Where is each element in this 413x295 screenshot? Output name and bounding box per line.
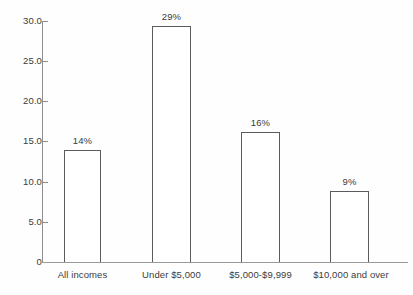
y-tick-mark bbox=[42, 101, 48, 102]
plot-area: 30.0 25.0 20.0 15.0 10.0 5.0 0 bbox=[0, 0, 413, 295]
y-tick-label: 5.0 bbox=[9, 217, 42, 227]
y-tick-label: 0 bbox=[9, 257, 42, 267]
y-tick-mark bbox=[42, 61, 48, 62]
y-tick-1: 25.0 bbox=[0, 56, 42, 57]
y-tick-label: 15.0 bbox=[9, 136, 42, 146]
y-axis-line bbox=[42, 21, 43, 263]
y-tick-label: 20.0 bbox=[9, 96, 42, 106]
y-tick-mark bbox=[42, 141, 48, 142]
y-tick-3: 15.0 bbox=[0, 136, 42, 137]
x-axis-line bbox=[42, 262, 408, 263]
x-tick-label-all-incomes: All incomes bbox=[39, 270, 126, 280]
y-tick-mark bbox=[42, 222, 48, 223]
bar-10000-and-over[interactable] bbox=[330, 191, 369, 262]
y-tick-mark bbox=[42, 182, 48, 183]
y-tick-5: 5.0 bbox=[0, 217, 42, 218]
y-tick-6: 0 bbox=[0, 257, 42, 258]
y-tick-label: 10.0 bbox=[9, 177, 42, 187]
y-tick-mark bbox=[42, 21, 48, 22]
x-tick-label-10000-and-over: $10,000 and over bbox=[303, 270, 399, 280]
bar-value-label: 14% bbox=[64, 136, 101, 146]
bar-chart: 30.0 25.0 20.0 15.0 10.0 5.0 0 bbox=[0, 0, 413, 295]
bar-value-label: 29% bbox=[152, 12, 191, 22]
y-tick-0: 30.0 bbox=[0, 16, 42, 17]
y-tick-label: 30.0 bbox=[9, 16, 42, 26]
bar-value-label: 16% bbox=[241, 118, 280, 128]
bar-under-5000[interactable] bbox=[152, 26, 191, 262]
bar-all-incomes[interactable] bbox=[64, 150, 101, 262]
y-tick-2: 20.0 bbox=[0, 96, 42, 97]
bar-value-label: 9% bbox=[330, 177, 369, 187]
x-tick-label-under-5000: Under $5,000 bbox=[128, 270, 215, 280]
y-tick-4: 10.0 bbox=[0, 177, 42, 178]
bar-5000-9999[interactable] bbox=[241, 132, 280, 262]
x-tick-label-5000-9999: $5,000-$9,999 bbox=[217, 270, 304, 280]
y-tick-label: 25.0 bbox=[9, 56, 42, 66]
